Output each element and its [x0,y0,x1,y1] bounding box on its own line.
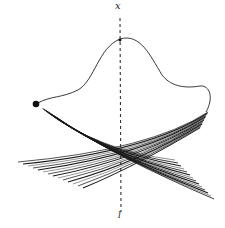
fan-left-stroke [44,110,181,166]
fan-left-stroke [52,114,199,184]
axis-label-top: x [115,0,121,11]
fan-right-stroke [43,118,205,172]
sketch-canvas [0,0,225,228]
fan-left-strokes [42,108,214,199]
peak-point [119,39,122,42]
main-curve [38,38,210,112]
fan-right-strokes [18,112,208,188]
peak-annotation: · [129,30,131,37]
start-point-dot [33,101,40,108]
axis-label-bottom: l [118,210,121,220]
vertical-axis [120,18,121,212]
